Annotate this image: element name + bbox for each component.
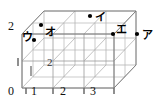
point-label-a: ア <box>142 30 153 41</box>
y-axis-label-2: 2 <box>8 20 14 32</box>
z-axis-label-2: 2 <box>47 57 53 68</box>
point-label-e: エ <box>116 24 127 35</box>
origin-label-0: 0 <box>8 85 14 97</box>
point-label-o: オ <box>45 27 56 38</box>
grid-box-svg <box>0 0 159 105</box>
front-face-grid <box>22 34 114 88</box>
back-face-grid <box>44 11 136 65</box>
point-label-i: イ <box>95 12 106 23</box>
dot-o <box>39 23 43 27</box>
x-axis-ticks <box>26 88 114 94</box>
dot-a <box>135 32 139 36</box>
x-axis-label-3: 3 <box>90 85 96 97</box>
dot-e <box>111 32 115 36</box>
point-label-u: ウ <box>22 32 33 43</box>
coordinate-figure: 2 0 1 2 3 2 ア イ ウ エ オ <box>0 0 159 105</box>
dot-i <box>88 14 92 18</box>
x-axis-label-2: 2 <box>60 85 66 97</box>
x-axis-label-1: 1 <box>31 85 37 97</box>
